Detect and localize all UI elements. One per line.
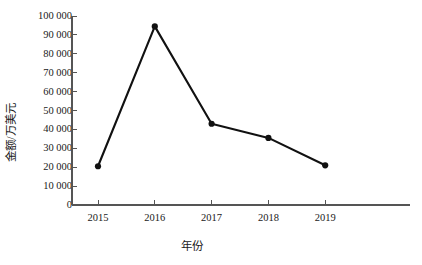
x-axis-title-text: 年份 (181, 237, 203, 253)
x-axis-tick-label: 2019 (315, 213, 336, 224)
x-axis-tick-label: 2015 (88, 213, 109, 224)
x-axis-title: 年份 (0, 237, 422, 253)
x-axis-tick-label: 2017 (201, 213, 222, 224)
x-axis-tick-label: 2016 (144, 213, 165, 224)
x-axis-tick-labels: 20152016201720182019 (0, 0, 422, 265)
x-axis-tick-label: 2018 (258, 213, 279, 224)
line-chart: 金额/万美元 010 00020 00030 00040 00050 00060… (0, 0, 422, 265)
